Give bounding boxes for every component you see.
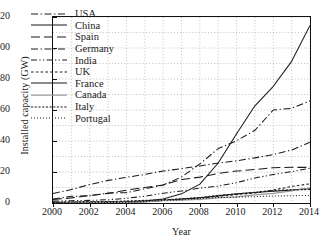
legend-label: Italy xyxy=(68,101,94,112)
x-tick-label: 2008 xyxy=(179,206,219,217)
legend-item-india[interactable]: India xyxy=(30,54,142,66)
legend-item-canada[interactable]: Canada xyxy=(30,89,142,101)
y-tick-label: 40 xyxy=(0,135,10,145)
legend-line-sample xyxy=(30,67,68,77)
legend-item-italy[interactable]: Italy xyxy=(30,101,142,113)
legend-line-sample xyxy=(30,78,68,88)
x-tick-label: 2014 xyxy=(289,206,325,217)
y-tick-label: 80 xyxy=(0,73,10,83)
legend-line-sample xyxy=(30,102,68,112)
y-axis-title: Installed capacity (GW) xyxy=(19,16,30,196)
x-tick-label: 2012 xyxy=(252,206,292,217)
y-tick-mark xyxy=(53,172,57,173)
x-tick-label: 2010 xyxy=(216,206,256,217)
legend-item-portugal[interactable]: Portugal xyxy=(30,112,142,124)
legend-item-germany[interactable]: Germany xyxy=(30,43,142,55)
legend-label: Germany xyxy=(68,43,114,54)
legend-line-sample xyxy=(30,44,68,54)
y-tick-label: 120 xyxy=(0,11,10,21)
legend-label: Portugal xyxy=(68,113,111,124)
legend-label: UK xyxy=(68,66,90,77)
legend-label: India xyxy=(68,55,97,66)
legend-label: China xyxy=(68,20,100,31)
legend-label: USA xyxy=(68,8,96,19)
x-tick-label: 2006 xyxy=(142,206,182,217)
y-tick-mark xyxy=(53,141,57,142)
legend-item-usa[interactable]: USA xyxy=(30,8,142,20)
legend-line-sample xyxy=(30,20,68,30)
legend-item-uk[interactable]: UK xyxy=(30,66,142,78)
x-axis-title: Year xyxy=(52,226,311,237)
x-tick-label: 2000 xyxy=(32,206,72,217)
legend-label: France xyxy=(68,78,104,89)
y-tick-label: 100 xyxy=(0,42,10,52)
chart-figure: Installed capacity (GW) Year USAChinaSpa… xyxy=(0,0,325,247)
y-tick-label: 20 xyxy=(0,166,10,176)
legend-line-sample xyxy=(30,90,68,100)
x-tick-label: 2002 xyxy=(69,206,109,217)
legend-item-france[interactable]: France xyxy=(30,78,142,90)
legend-item-spain[interactable]: Spain xyxy=(30,31,142,43)
y-tick-label: 0 xyxy=(0,197,10,207)
legend-line-sample xyxy=(30,113,68,123)
legend-label: Spain xyxy=(68,31,99,42)
legend-line-sample xyxy=(30,55,68,65)
legend-item-china[interactable]: China xyxy=(30,20,142,32)
legend-line-sample xyxy=(30,32,68,42)
x-tick-label: 2004 xyxy=(105,206,145,217)
legend-line-sample xyxy=(30,9,68,19)
legend-label: Canada xyxy=(68,89,107,100)
chart-legend: USAChinaSpainGermanyIndiaUKFranceCanadaI… xyxy=(30,8,142,124)
y-tick-label: 60 xyxy=(0,104,10,114)
